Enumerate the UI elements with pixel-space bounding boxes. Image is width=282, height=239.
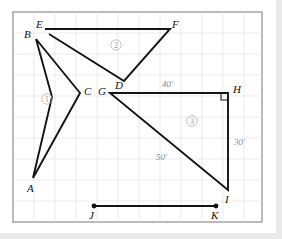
vertex-label-d: D: [114, 79, 123, 91]
vertex-label-h: H: [232, 83, 242, 95]
vertex-label-c: C: [84, 85, 92, 97]
vertex-label-a: A: [26, 182, 34, 194]
endpoint-dot-k: [214, 204, 219, 209]
dimension-label-gh: 40': [162, 79, 174, 89]
region-number-3-text: 3: [190, 117, 194, 126]
endpoint-dot-j: [92, 204, 97, 209]
vertex-label-e: E: [35, 18, 43, 30]
region-number-1-text: 1: [45, 95, 49, 104]
vertex-label-f: F: [171, 18, 179, 30]
dimension-label-gi: 50': [156, 152, 168, 162]
diagram-canvas: A B C D E F G H I J K 40' 30' 50' 1 2 3: [0, 0, 282, 239]
vertex-label-k: K: [210, 209, 219, 221]
vertex-label-g: G: [98, 85, 106, 97]
vertex-label-b: B: [24, 28, 31, 40]
dimension-label-hi: 30': [233, 137, 246, 147]
region-number-2-text: 2: [114, 41, 118, 50]
geometry-figure: A B C D E F G H I J K 40' 30' 50' 1 2 3: [0, 0, 282, 239]
